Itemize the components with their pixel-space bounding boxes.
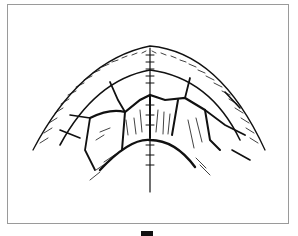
figure-caption-glyph — [141, 231, 153, 236]
dome-section-drawing — [0, 0, 298, 236]
